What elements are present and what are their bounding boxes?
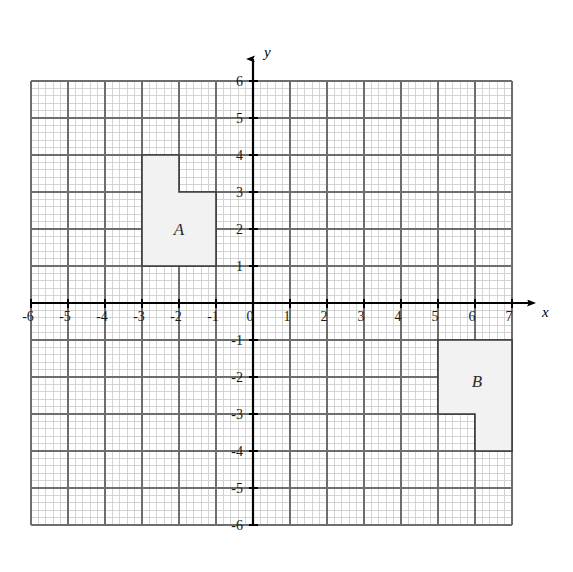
x-tick-label: 3 [358,309,365,324]
x-tick-label: 6 [469,309,476,324]
x-tick-label: -3 [133,309,145,324]
y-tick-label: -6 [231,518,243,533]
x-tick-label: -4 [96,309,108,324]
shape-a-label: A [173,220,185,239]
coordinate-plane-svg: -6-5-4-3-2-101234567-6-5-4-3-2-1123456 x… [0,0,573,572]
x-tick-label: -1 [207,309,219,324]
x-tick-label: -5 [59,309,71,324]
y-tick-label: 3 [236,185,243,200]
y-tick-label: 5 [236,111,243,126]
x-tick-label: 1 [284,309,291,324]
shape-b [438,340,512,451]
y-tick-label: -2 [231,370,243,385]
shape-b-label: B [472,372,483,391]
y-tick-label: -5 [231,481,243,496]
y-axis-label: y [262,44,271,60]
y-tick-label: -4 [231,444,243,459]
x-tick-label: 0 [247,309,254,324]
x-axis-label: x [541,304,549,320]
coordinate-grid-figure: -6-5-4-3-2-101234567-6-5-4-3-2-1123456 x… [0,0,573,572]
x-tick-label: 4 [395,309,402,324]
y-tick-label: 1 [236,259,243,274]
y-tick-label: 4 [236,148,243,163]
y-tick-label: 6 [236,74,243,89]
x-tick-label: 2 [321,309,328,324]
y-tick-label: -3 [231,407,243,422]
x-tick-label: 7 [506,309,513,324]
y-tick-label: 2 [236,222,243,237]
x-tick-label: -6 [22,309,34,324]
x-tick-label: 5 [432,309,439,324]
shape-a [142,155,216,266]
x-tick-label: -2 [170,309,182,324]
y-tick-label: -1 [231,333,243,348]
